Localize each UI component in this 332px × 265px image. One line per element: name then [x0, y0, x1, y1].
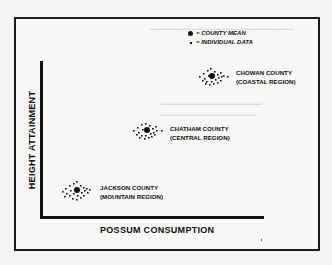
scatter-points-icon [131, 120, 165, 142]
legend-individual-label: = INDIVIDUAL DATA [196, 38, 253, 47]
individual-data-marker-icon [190, 42, 192, 44]
county-name: JACKSON COUNTY [100, 183, 163, 192]
legend-item-individual: = INDIVIDUAL DATA [188, 38, 253, 47]
x-axis-line [40, 216, 264, 219]
county-mean-marker-icon [188, 31, 193, 36]
data-cluster-chowan [196, 66, 224, 84]
legend: = COUNTY MEAN = INDIVIDUAL DATA [188, 29, 253, 47]
legend-mean-label: = COUNTY MEAN [196, 29, 246, 38]
scatter-points-icon [60, 180, 94, 202]
county-region: (CENTRAL REGION) [170, 133, 230, 142]
bleed-through-text: ▁▁▁▁▁▁▁▁▁▁▁▁▁▁▁▁▁ [160, 95, 262, 106]
x-axis-label: POSSUM CONSUMPTION [100, 225, 214, 235]
scan-speck [261, 239, 262, 241]
cluster-label-chatham: CHATHAM COUNTY (CENTRAL REGION) [170, 124, 230, 142]
legend-item-mean: = COUNTY MEAN [188, 29, 253, 38]
scatter-points-icon [196, 66, 230, 88]
county-name: CHOWAN COUNTY [236, 68, 296, 77]
y-axis-line [40, 61, 43, 219]
data-cluster-jackson [60, 180, 88, 198]
cluster-label-chowan: CHOWAN COUNTY (COASTAL REGION) [236, 68, 296, 86]
y-axis-label: HEIGHT ATTAINMENT [27, 91, 37, 189]
bleed-through-text: ▁▁▁▁▁▁▁▁▁▁▁▁▁▁▁▁ [160, 106, 256, 117]
cluster-label-jackson: JACKSON COUNTY (MOUNTAIN REGION) [100, 183, 163, 201]
data-cluster-chatham [131, 120, 159, 138]
county-region: (MOUNTAIN REGION) [100, 192, 163, 201]
county-name: CHATHAM COUNTY [170, 124, 230, 133]
county-region: (COASTAL REGION) [236, 77, 296, 86]
